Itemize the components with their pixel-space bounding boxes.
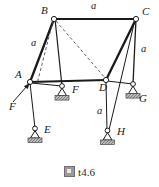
support-G-triangle xyxy=(129,86,138,93)
support-E xyxy=(28,126,42,143)
support-G-ground xyxy=(126,94,140,99)
support-E-triangle xyxy=(31,131,40,138)
node-label-F-support: F xyxy=(72,84,79,95)
member-AE xyxy=(30,83,35,128)
dashed-construction-lines xyxy=(37,21,106,84)
figure-caption-text: t4.6 xyxy=(78,166,95,178)
square-glyph-icon xyxy=(64,166,75,177)
joint-B xyxy=(51,16,56,21)
support-H-triangle xyxy=(103,133,112,140)
support-G xyxy=(126,82,140,99)
node-label-D: D xyxy=(99,82,107,93)
support-H-ground xyxy=(101,140,115,145)
joint-A xyxy=(27,79,32,84)
node-label-G: G xyxy=(139,93,147,104)
dimension-label-BC: a xyxy=(91,1,96,12)
node-label-E: E xyxy=(44,124,51,135)
node-label-H: H xyxy=(117,126,125,137)
truss-diagram-canvas xyxy=(0,0,159,187)
dimension-label-AB: a xyxy=(31,38,36,49)
joint-C xyxy=(133,16,138,21)
frame-members xyxy=(30,19,136,86)
member-CD xyxy=(106,19,136,80)
support-E-ground xyxy=(28,138,42,143)
support-F-ground xyxy=(55,96,69,101)
member-AD xyxy=(30,80,106,82)
force-label-F: F xyxy=(9,101,16,112)
dimension-label-DH: a xyxy=(97,106,102,117)
node-label-A: A xyxy=(15,69,22,80)
member-BF xyxy=(55,19,62,86)
member-CG xyxy=(133,19,136,84)
node-label-C: C xyxy=(142,6,149,17)
node-label-B: B xyxy=(41,5,48,16)
support-H xyxy=(101,128,115,145)
truss-figure: B C A D F G E H a a a a F t4.6 xyxy=(0,0,159,187)
figure-caption: t4.6 xyxy=(0,166,159,178)
support-F-triangle xyxy=(58,88,67,95)
member-AF xyxy=(31,83,62,86)
support-F xyxy=(55,84,69,101)
dimension-label-CG: a xyxy=(141,44,146,55)
dashed-B-to-D xyxy=(56,21,106,79)
member-CH xyxy=(109,24,134,130)
member-AB xyxy=(30,19,54,82)
